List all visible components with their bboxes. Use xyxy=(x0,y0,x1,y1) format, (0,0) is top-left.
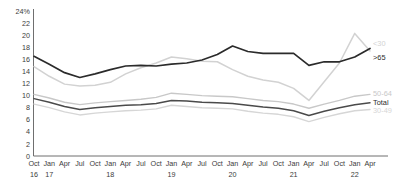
x-axis-month-label: Jan xyxy=(166,159,178,168)
series-lines-group xyxy=(34,33,370,121)
x-axis-month-label: Jul xyxy=(75,159,85,168)
y-axis-tick-labels: 024681012141618202224% xyxy=(16,7,31,161)
x-axis-month-label: Jul xyxy=(258,159,268,168)
y-axis-tick: 20 xyxy=(22,31,30,40)
x-axis-year-label: 21 xyxy=(290,170,298,179)
y-axis-tick: 12 xyxy=(22,79,30,88)
x-axis-month-label: Oct xyxy=(212,159,223,168)
x-axis-month-label: Jan xyxy=(227,159,239,168)
x-axis-month-label: Oct xyxy=(334,159,345,168)
y-axis-tick: 4 xyxy=(26,127,30,136)
x-axis-month-label: Oct xyxy=(28,159,39,168)
x-axis-month-label: Oct xyxy=(89,159,100,168)
x-axis-month-label: Oct xyxy=(273,159,284,168)
y-axis-tick: 18 xyxy=(22,43,30,52)
x-axis-month-label: Jan xyxy=(43,159,55,168)
x-axis-year-label: 19 xyxy=(167,170,175,179)
x-axis-month-label: Oct xyxy=(151,159,162,168)
x-axis-month-label: Jan xyxy=(349,159,361,168)
x-axis-year-label: 16 xyxy=(30,170,38,179)
x-axis-month-label: Apr xyxy=(120,159,132,168)
x-axis-month-label: Apr xyxy=(181,159,193,168)
y-axis-tick: 22 xyxy=(22,19,30,28)
series-label-65: >65 xyxy=(373,53,386,62)
chart-canvas: 024681012141618202224% <30>6550-64Total3… xyxy=(0,0,394,193)
x-axis-year-label: 17 xyxy=(45,170,53,179)
x-axis-year-label: 22 xyxy=(351,170,359,179)
x-axis-month-label: Apr xyxy=(59,159,71,168)
x-axis-month-label: Jul xyxy=(197,159,207,168)
y-axis-tick: 2 xyxy=(26,140,30,149)
x-axis-month-label: Jan xyxy=(288,159,300,168)
y-axis-tick: 14 xyxy=(22,67,30,76)
series-line-5064 xyxy=(34,93,370,108)
y-axis-tick: 16 xyxy=(22,55,30,64)
y-axis-tick: 6 xyxy=(26,115,30,124)
series-label-30: <30 xyxy=(373,39,386,48)
series-label-3049: 30-49 xyxy=(373,106,392,115)
x-axis-year-label: 20 xyxy=(229,170,237,179)
x-axis-month-label: Jul xyxy=(136,159,146,168)
y-axis-tick: 24% xyxy=(16,7,31,16)
series-label-5064: 50-64 xyxy=(373,89,392,98)
x-axis-month-label: Apr xyxy=(364,159,376,168)
series-inline-labels: <30>6550-64Total30-49 xyxy=(373,39,392,114)
series-line-30 xyxy=(34,33,370,100)
y-axis-tick: 8 xyxy=(26,103,30,112)
line-chart: 024681012141618202224% <30>6550-64Total3… xyxy=(0,0,394,193)
x-axis-month-label: Apr xyxy=(303,159,315,168)
x-axis-month-labels: OctJanAprJulOctJanAprJulOctJanAprJulOctJ… xyxy=(28,159,376,168)
x-axis-month-label: Jul xyxy=(320,159,330,168)
y-axis-tick: 10 xyxy=(22,91,30,100)
x-axis-year-label: 18 xyxy=(106,170,114,179)
x-axis-year-labels: 16171819202122 xyxy=(30,170,359,179)
x-axis-month-label: Jan xyxy=(105,159,117,168)
x-axis-month-label: Apr xyxy=(242,159,254,168)
